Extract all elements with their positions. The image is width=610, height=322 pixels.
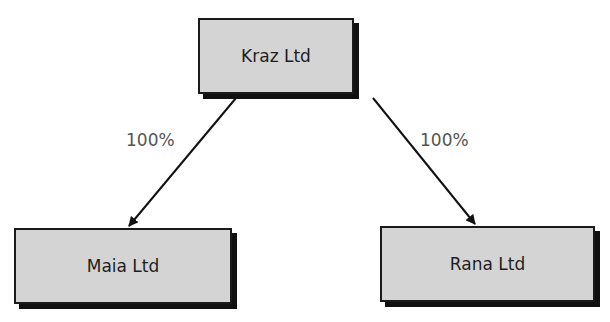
node-kraz: Kraz Ltd (198, 18, 354, 94)
node-rana: Rana Ltd (380, 226, 595, 302)
edge-label-kraz-maia: 100% (126, 130, 175, 150)
edge-label-kraz-rana: 100% (420, 130, 469, 150)
node-box: Kraz Ltd (198, 18, 354, 94)
node-label: Rana Ltd (450, 254, 525, 274)
edge-kraz-maia (129, 98, 236, 226)
node-label: Maia Ltd (87, 256, 160, 276)
node-box: Maia Ltd (14, 228, 232, 304)
node-box: Rana Ltd (380, 226, 595, 302)
node-label: Kraz Ltd (241, 46, 311, 66)
node-maia: Maia Ltd (14, 228, 232, 304)
edge-kraz-rana (373, 98, 475, 224)
